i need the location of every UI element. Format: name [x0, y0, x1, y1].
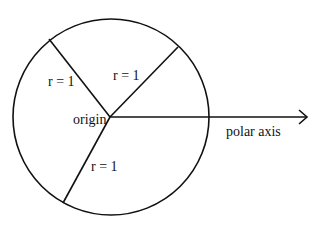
- polar-diagram: r = 1 r = 1 r = 1 origin polar axis: [0, 0, 318, 227]
- radius-label-lower: r = 1: [91, 159, 118, 174]
- radius-label-upper-left: r = 1: [48, 74, 75, 89]
- polar-axis-label: polar axis: [226, 124, 281, 139]
- origin-label: origin: [73, 112, 106, 127]
- radius-label-upper-right: r = 1: [113, 68, 140, 83]
